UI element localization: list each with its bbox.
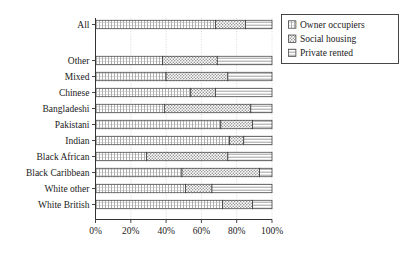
bar-segment xyxy=(96,200,223,209)
legend-label: Owner occupiers xyxy=(300,20,365,30)
bar-row xyxy=(96,56,273,65)
bar-segment xyxy=(228,152,272,161)
bar-segment xyxy=(96,20,216,29)
bar-segment xyxy=(166,72,228,81)
bar-segment xyxy=(253,200,272,209)
bar-segment xyxy=(163,56,218,65)
legend-swatch xyxy=(289,49,296,56)
bar-segment xyxy=(251,104,272,113)
bar-segment xyxy=(96,136,230,145)
bar-segment xyxy=(164,104,250,113)
bar-segment xyxy=(260,168,272,177)
category-label: Pakistani xyxy=(55,120,90,130)
stacked-bar-chart: 0%20%40%60%80%100% AllOtherMixedChineseB… xyxy=(0,0,402,253)
bar-segment xyxy=(246,20,272,29)
bar-segment xyxy=(217,56,272,65)
bar-segment xyxy=(147,152,228,161)
bar-segment xyxy=(96,56,163,65)
bar-segment xyxy=(216,20,246,29)
bar-row xyxy=(96,184,273,193)
bar-segment xyxy=(96,184,186,193)
category-label: Bangladeshi xyxy=(43,104,90,114)
x-tick-label: 80% xyxy=(228,226,246,236)
category-label: Chinese xyxy=(59,88,90,98)
bar-segment xyxy=(96,168,182,177)
bar-segment xyxy=(96,88,191,97)
category-label: White other xyxy=(44,184,90,194)
bar-segment xyxy=(96,72,167,81)
bar-row xyxy=(96,104,273,113)
bar-segment xyxy=(96,152,147,161)
chart-canvas: 0%20%40%60%80%100% AllOtherMixedChineseB… xyxy=(0,0,402,253)
bar-row xyxy=(96,168,273,177)
category-label: Black African xyxy=(36,152,89,162)
category-label: Indian xyxy=(65,136,90,146)
legend-swatch xyxy=(289,35,296,42)
bar-segment xyxy=(228,72,272,81)
category-label: Mixed xyxy=(65,72,90,82)
bar-row xyxy=(96,152,273,161)
x-tick-label: 20% xyxy=(122,226,140,236)
bar-segment xyxy=(186,184,212,193)
legend-label: Social housing xyxy=(300,34,356,44)
x-tick-label: 100% xyxy=(261,226,283,236)
bar-segment xyxy=(182,168,260,177)
category-label: All xyxy=(77,20,90,30)
x-tick-label: 60% xyxy=(193,226,211,236)
bar-segment xyxy=(212,184,272,193)
bar-row xyxy=(96,200,273,209)
x-tick-label: 0% xyxy=(89,226,102,236)
legend-swatch xyxy=(289,21,296,28)
category-label: Black Caribbean xyxy=(26,168,90,178)
bar-row xyxy=(96,72,273,81)
x-tick-label: 40% xyxy=(157,226,175,236)
bar-segment xyxy=(223,200,253,209)
bar-row xyxy=(96,20,273,29)
legend-label: Private rented xyxy=(300,48,353,58)
bar-segment xyxy=(96,104,165,113)
category-label: White British xyxy=(38,200,90,210)
bar-segment xyxy=(244,136,272,145)
bar-row xyxy=(96,120,273,129)
bar-segment xyxy=(191,88,216,97)
bar-segment xyxy=(230,136,244,145)
bar-segment xyxy=(253,120,272,129)
bar-segment xyxy=(221,120,253,129)
bar-row xyxy=(96,88,273,97)
bar-segment xyxy=(96,120,221,129)
chart-legend: Owner occupiersSocial housingPrivate ren… xyxy=(282,15,399,64)
bar-segment xyxy=(216,88,272,97)
bar-row xyxy=(96,136,273,145)
category-label: Other xyxy=(68,56,90,66)
